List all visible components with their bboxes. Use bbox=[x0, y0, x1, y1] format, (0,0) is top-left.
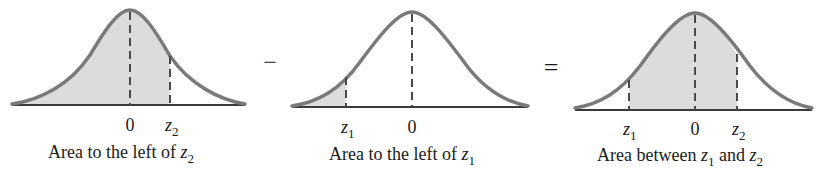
caption-left-of-z1: Area to the left of z1 bbox=[329, 144, 475, 168]
panel-left-of-z1: z1 0 Area to the left of z1 bbox=[292, 12, 528, 168]
tick-label-zero: 0 bbox=[126, 115, 135, 135]
tick-label-z1: z1 bbox=[340, 117, 355, 141]
normal-curve bbox=[292, 12, 528, 106]
equals-operator: = bbox=[544, 53, 559, 82]
caption-left-of-z2: Area to the left of z2 bbox=[48, 142, 194, 166]
normal-area-diagram: 0 z2 Area to the left of z2 − z1 0 Area … bbox=[0, 0, 818, 183]
shaded-area-left-of-z2 bbox=[12, 10, 170, 105]
panel-left-of-z2: 0 z2 Area to the left of z2 bbox=[12, 10, 245, 166]
panel-between-z1-z2: z1 0 z2 Area between z1 and z2 bbox=[575, 13, 812, 169]
tick-label-z2: z2 bbox=[731, 119, 746, 143]
shaded-area-left-of-z1 bbox=[292, 77, 346, 107]
caption-between-z1-z2: Area between z1 and z2 bbox=[597, 145, 763, 169]
tick-label-z2: z2 bbox=[164, 115, 179, 139]
minus-operator: − bbox=[263, 49, 277, 75]
tick-label-z1: z1 bbox=[622, 119, 637, 143]
tick-label-zero: 0 bbox=[408, 117, 417, 137]
tick-label-zero: 0 bbox=[691, 119, 700, 139]
